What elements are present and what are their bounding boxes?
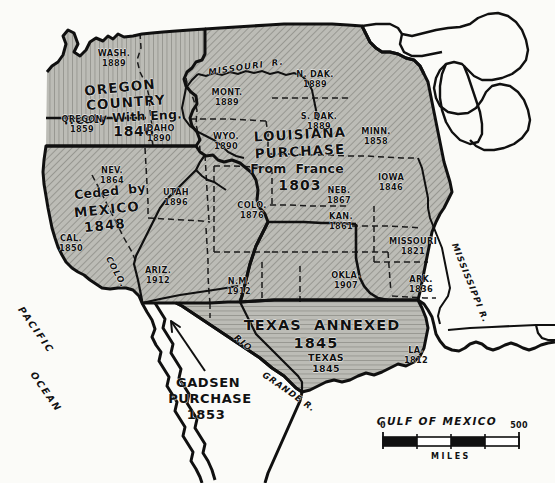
region-oregon-country [46, 29, 205, 146]
map-illustration [0, 0, 555, 483]
historical-map: OREGON COUNTRY Treaty With Eng. 1846 Ced… [0, 0, 555, 483]
